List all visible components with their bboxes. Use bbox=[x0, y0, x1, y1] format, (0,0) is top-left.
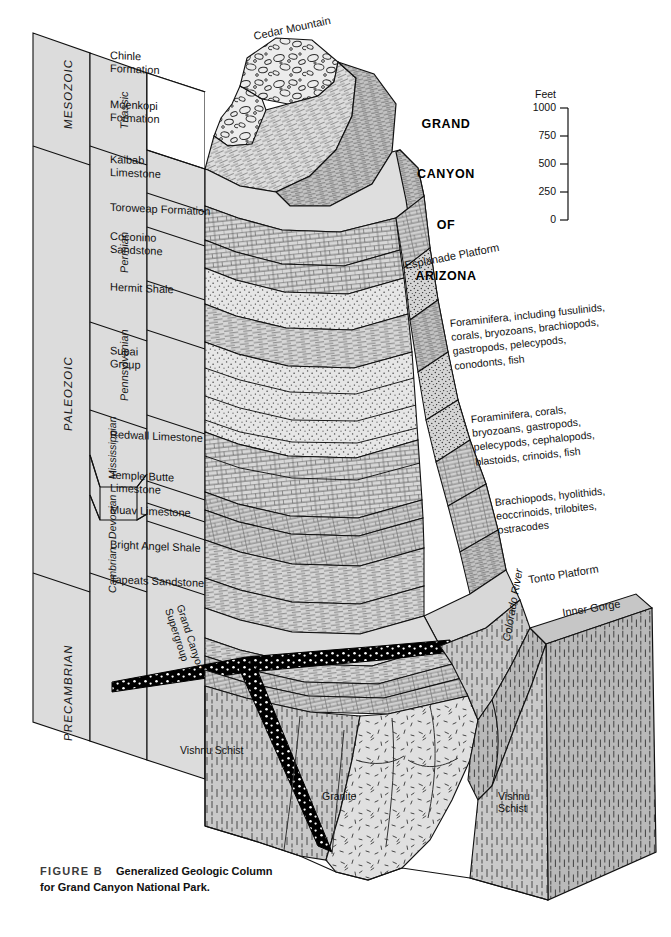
formation-label-moenkopi: Moenkopi Formation bbox=[110, 98, 160, 126]
scale-tick-250: 250 bbox=[506, 185, 556, 197]
scale-tick-750: 750 bbox=[506, 129, 556, 141]
era-label-mesozoic: MESOZOIC bbox=[62, 58, 76, 130]
rock-label-granite: Granite bbox=[322, 790, 356, 802]
figure-canvas: MESOZOIC PALEOZOIC PRECAMBRIAN Triassic … bbox=[0, 0, 671, 937]
figure-caption-title-line2: for Grand Canyon National Park. bbox=[40, 881, 210, 893]
period-label-cambrian: Cambrian bbox=[106, 546, 118, 593]
title-line-arizona: ARIZONA bbox=[398, 268, 494, 285]
scale-tick-500: 500 bbox=[506, 157, 556, 169]
map-title-block: GRAND CANYON OF ARIZONA bbox=[398, 82, 494, 301]
rock-label-vishnu-schist-right: Vishnu Schist bbox=[498, 790, 530, 815]
formation-label-temple-butte: Temple Butte Limestone bbox=[110, 469, 174, 498]
scale-bar bbox=[560, 108, 568, 220]
scale-tick-1000: 1000 bbox=[506, 101, 556, 113]
scale-tick-0: 0 bbox=[506, 213, 556, 225]
rock-label-vishnu-schist-left: Vishnu Schist bbox=[180, 744, 243, 756]
formation-label-kaibab: Kaibab Limestone bbox=[110, 153, 161, 181]
vishnu-schist-right-face bbox=[546, 608, 656, 900]
formation-label-chinle: Chinle Formation bbox=[110, 49, 160, 77]
figure-caption-title-line1: Generalized Geologic Column bbox=[116, 865, 272, 877]
title-line-canyon: CANYON bbox=[398, 166, 494, 183]
era-label-precambrian: PRECAMBRIAN bbox=[62, 644, 76, 742]
era-label-paleozoic: PALEOZOIC bbox=[62, 355, 76, 432]
scale-caption-feet: Feet bbox=[511, 88, 556, 100]
period-label-devonian: Devonian bbox=[106, 494, 118, 540]
formation-label-supai-group: Supai Group bbox=[110, 344, 141, 371]
formation-label-hermit-shale: Hermit Shale bbox=[110, 281, 174, 297]
formation-label-coconino: Coconino Sandstone bbox=[110, 230, 163, 258]
figure-caption: FIGURE B Generalized Geologic Column for… bbox=[40, 864, 370, 896]
title-line-grand: GRAND bbox=[398, 116, 494, 133]
figure-caption-label: FIGURE B bbox=[40, 865, 103, 877]
title-line-of: OF bbox=[398, 217, 494, 234]
